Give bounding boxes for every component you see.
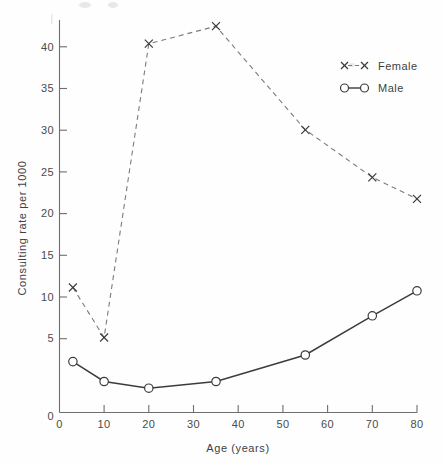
y-tick-label-25: 25 [41, 166, 54, 178]
x-tick-label-20: 20 [142, 418, 155, 430]
legend-label-male: Male [378, 82, 404, 94]
data-point-male-10 [100, 377, 108, 385]
data-point-male-55 [301, 351, 309, 359]
data-point-female-3 [69, 284, 77, 292]
series-male-line [73, 291, 417, 388]
y-axis-tick-labels: 40 35 30 25 20 15 10 5 0 [41, 41, 54, 423]
scan-artifact [51, 14, 53, 24]
series-female-markers [69, 22, 421, 341]
y-tick-label-20: 20 [41, 207, 54, 219]
data-point-male-3 [69, 357, 77, 365]
data-point-female-10 [100, 334, 108, 342]
y-tick-label-0: 0 [47, 410, 54, 422]
data-point-male-70 [368, 312, 376, 320]
series-male-markers [69, 287, 421, 393]
x-tick-label-0: 0 [56, 418, 63, 430]
x-tick-label-30: 30 [187, 418, 200, 430]
series-male [69, 287, 421, 393]
x-tick-label-10: 10 [98, 418, 111, 430]
scan-artifact [79, 2, 91, 8]
axes [60, 20, 418, 413]
x-tick-label-80: 80 [410, 418, 423, 430]
data-point-female-80 [413, 195, 421, 203]
legend-item-male: Male [341, 82, 404, 94]
y-axis-title: Consulting rate per 1000 [16, 161, 28, 296]
scan-artifact [108, 2, 118, 8]
series-female [69, 22, 421, 341]
data-point-male-35 [212, 377, 220, 385]
x-tick-label-50: 50 [276, 418, 289, 430]
y-tick-label-15: 15 [41, 249, 54, 261]
legend-circle-icon-left [341, 84, 349, 92]
data-point-female-35 [212, 22, 220, 30]
chart-container: 40 35 30 25 20 15 10 5 0 0 10 20 30 40 [0, 0, 442, 465]
data-point-male-80 [413, 287, 421, 295]
x-tick-label-70: 70 [366, 418, 379, 430]
y-tick-label-30: 30 [41, 124, 54, 136]
data-point-male-20 [145, 384, 153, 392]
legend-label-female: Female [378, 60, 418, 72]
data-point-female-70 [368, 173, 376, 181]
x-tick-label-60: 60 [321, 418, 334, 430]
consulting-rate-line-chart: 40 35 30 25 20 15 10 5 0 0 10 20 30 40 [0, 0, 442, 465]
data-point-female-55 [301, 126, 309, 134]
legend-circle-icon-right [361, 84, 369, 92]
y-tick-label-5: 5 [47, 332, 54, 344]
x-axis-ticks [104, 405, 417, 413]
y-axis-ticks [60, 47, 68, 339]
y-tick-label-10: 10 [41, 291, 54, 303]
x-axis-title: Age (years) [206, 442, 269, 454]
x-tick-label-40: 40 [232, 418, 245, 430]
y-tick-label-35: 35 [41, 82, 54, 94]
x-axis-tick-labels: 0 10 20 30 40 50 60 70 80 [56, 418, 423, 430]
series-female-line [73, 26, 417, 337]
y-tick-label-40: 40 [41, 41, 54, 53]
